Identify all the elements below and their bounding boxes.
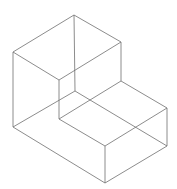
wireframe-diagram (0, 0, 177, 189)
edge-GL (13, 91, 75, 127)
edge-CD (59, 42, 121, 80)
edge-AL (74, 15, 75, 91)
edge-GH (13, 127, 105, 183)
edge-BC (13, 52, 59, 80)
edge-AD (74, 15, 121, 42)
edge-EJ (121, 81, 167, 108)
edge-FI (59, 119, 105, 146)
edge-AB (13, 15, 74, 52)
edge-LK (75, 91, 167, 146)
edge-HK (105, 146, 167, 183)
